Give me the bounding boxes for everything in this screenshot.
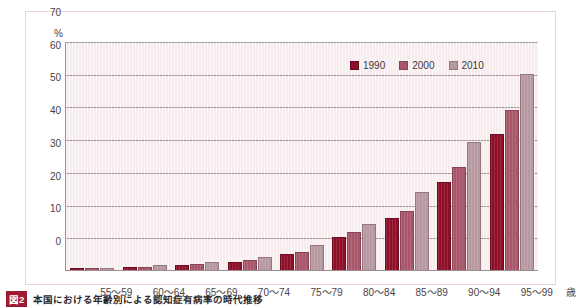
legend-item-1990: 1990 xyxy=(350,60,385,71)
y-axis-tick-label: 70 xyxy=(50,7,61,18)
bar-2010-60～64 xyxy=(153,265,167,270)
y-axis-tick-label: 60 xyxy=(50,39,61,50)
bar-2010-80～84 xyxy=(362,224,376,270)
bar-group xyxy=(118,42,170,270)
bar-2010-85～89 xyxy=(415,192,429,271)
figure-caption: 図2 本国における年齢別による認知症有病率の時代推移 xyxy=(6,291,566,307)
y-axis-tick-label: 50 xyxy=(50,72,61,83)
legend-swatch-icon xyxy=(350,61,359,70)
figure-number-badge: 図2 xyxy=(6,291,27,307)
bar-group xyxy=(66,42,118,270)
y-axis-tick-label: 0 xyxy=(55,236,61,247)
y-axis-labels: 706050403020100 xyxy=(26,12,65,241)
bar-group xyxy=(381,42,433,270)
bar-2000-90～94 xyxy=(452,167,466,270)
figure-caption-text: 本国における年齢別による認知症有病率の時代推移 xyxy=(33,292,263,306)
legend-swatch-icon xyxy=(399,61,408,70)
bar-2000-55～59 xyxy=(85,268,99,270)
plot-area xyxy=(65,42,538,271)
legend-item-2000: 2000 xyxy=(399,60,434,71)
legend-label: 2010 xyxy=(462,60,484,71)
gridline xyxy=(66,107,538,108)
legend: 199020002010 xyxy=(350,60,484,71)
gridline xyxy=(66,173,538,174)
bar-2010-55～59 xyxy=(100,268,114,270)
bar-1990-65～69 xyxy=(175,265,189,270)
y-axis-tick-label: 20 xyxy=(50,170,61,181)
bar-2000-65～69 xyxy=(190,264,204,270)
bar-series-layer xyxy=(66,42,538,270)
gridline xyxy=(66,75,538,76)
legend-swatch-icon xyxy=(449,61,458,70)
bar-2010-75～79 xyxy=(310,245,324,270)
y-axis-tick-label: 40 xyxy=(50,105,61,116)
bar-2000-85～89 xyxy=(400,211,414,270)
bar-2000-95～99 xyxy=(505,110,519,270)
gridline xyxy=(66,206,538,207)
bar-group xyxy=(223,42,275,270)
y-axis-tick-label: 10 xyxy=(50,203,61,214)
gridline xyxy=(66,42,538,43)
gridline xyxy=(66,140,538,141)
bar-group xyxy=(171,42,223,270)
legend-label: 1990 xyxy=(363,60,385,71)
bar-1990-60～64 xyxy=(123,267,137,270)
bar-group xyxy=(276,42,328,270)
bar-2010-70～74 xyxy=(258,257,272,270)
y-axis-tick-label: 30 xyxy=(50,137,61,148)
bar-2010-65～69 xyxy=(205,262,219,270)
figure-frame: % 706050403020100 199020002010 55～5960～6… xyxy=(25,11,556,285)
bar-1990-55～59 xyxy=(70,268,84,270)
bar-1990-75～79 xyxy=(280,254,294,270)
bar-1990-85～89 xyxy=(385,218,399,270)
bar-group xyxy=(433,42,485,270)
bar-1990-95～99 xyxy=(490,134,504,270)
bar-1990-70～74 xyxy=(228,262,242,270)
legend-item-2010: 2010 xyxy=(449,60,484,71)
bar-1990-80～84 xyxy=(332,237,346,270)
plot-background-texture xyxy=(66,42,538,270)
bar-2000-70～74 xyxy=(243,260,257,270)
gridline xyxy=(66,238,538,239)
bar-2000-60～64 xyxy=(138,267,152,270)
x-axis-unit-label: 歳 xyxy=(566,284,576,299)
bar-1990-90～94 xyxy=(437,182,451,270)
bar-2000-75～79 xyxy=(295,252,309,270)
bar-group xyxy=(486,42,538,270)
bar-group xyxy=(328,42,380,270)
legend-label: 2000 xyxy=(412,60,434,71)
